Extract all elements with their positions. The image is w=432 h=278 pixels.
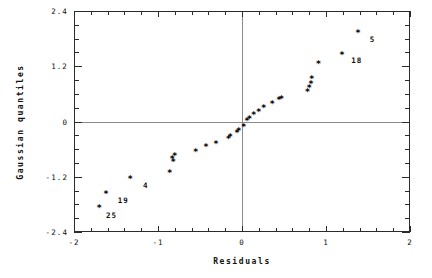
data-point: * [102,191,109,198]
x-axis-tick-top [124,11,125,15]
y-axis-tick-right [405,163,410,164]
y-axis-tick-left [74,52,79,53]
x-tick-label: 1 [323,238,329,247]
x-axis-tick-bottom [343,228,344,232]
x-axis-tick-top [343,11,344,15]
data-point: * [338,52,345,59]
y-axis-tick-right [405,191,410,192]
y-axis-tick-right [405,135,410,136]
x-axis-tick-top [309,11,310,15]
data-point: * [96,205,103,212]
data-point: * [166,170,173,177]
y-tick-label: 1.2 [51,62,68,71]
x-axis-tick-top [141,11,142,15]
y-axis-tick-left [74,218,79,219]
x-axis-tick-bottom [259,228,260,232]
y-axis-tick-left [74,122,82,123]
y-tick-label: 0 [62,118,68,127]
point-annotation: 25 [106,211,117,220]
x-axis-tick-bottom [309,228,310,232]
x-tick-label: -2 [68,238,79,247]
x-axis-tick-top [376,11,377,15]
x-axis-tick-bottom [326,226,327,232]
data-point: * [260,105,267,112]
y-axis-tick-left [74,25,79,26]
y-axis-tick-left [74,177,82,178]
x-axis-tick-bottom [141,228,142,232]
data-point: * [202,144,209,151]
y-axis-tick-right [405,25,410,26]
x-axis-tick-top [242,11,243,17]
y-axis-tick-right [405,149,410,150]
y-axis-tick-left [74,108,79,109]
y-axis-tick-right [405,108,410,109]
x-tick-label: 0 [239,238,245,247]
y-axis-tick-left [74,39,79,40]
data-point: * [278,96,285,103]
x-axis-tick-bottom [276,228,277,232]
x-axis-tick-top [158,11,159,17]
y-axis-title: Gaussian quantiles [16,64,25,180]
x-axis-tick-top [175,11,176,15]
x-axis-tick-top [410,11,411,17]
x-axis-tick-bottom [292,228,293,232]
data-point: * [354,30,361,37]
x-axis-tick-bottom [360,228,361,232]
y-axis-tick-left [74,80,79,81]
data-point: * [212,141,219,148]
y-axis-tick-right [405,218,410,219]
x-axis-tick-bottom [393,228,394,232]
x-axis-tick-bottom [225,228,226,232]
x-axis-tick-top [208,11,209,15]
y-axis-tick-right [405,39,410,40]
x-axis-tick-bottom [108,228,109,232]
data-point: * [308,76,315,83]
y-axis-tick-left [74,204,79,205]
x-axis-tick-bottom [376,228,377,232]
y-tick-label: -1.2 [46,173,68,182]
x-axis-tick-top [192,11,193,15]
y-tick-label: 2.4 [51,7,68,16]
y-axis-tick-left [74,94,79,95]
y-axis-tick-left [74,191,79,192]
data-point: * [315,61,322,68]
data-point: * [192,149,199,156]
x-axis-tick-top [108,11,109,15]
y-tick-label: -2.4 [46,228,68,237]
y-axis-tick-right [405,204,410,205]
x-axis-tick-bottom [175,228,176,232]
x-axis-tick-top [225,11,226,15]
chart-root: -2-10122.41.20-1.2-2.4 *****************… [0,0,432,278]
x-axis-tick-bottom [242,226,243,232]
point-annotation: 19 [118,196,129,205]
point-annotation: 5 [370,35,376,44]
data-point: * [171,153,178,160]
x-axis-tick-bottom [91,228,92,232]
x-axis-tick-bottom [192,228,193,232]
y-axis-tick-right [405,94,410,95]
y-axis-tick-left [74,149,79,150]
y-axis-tick-right [402,11,410,12]
x-axis-tick-bottom [124,228,125,232]
y-axis-tick-right [402,232,410,233]
x-axis-tick-top [360,11,361,15]
point-annotation: 18 [351,56,362,65]
point-annotation: 4 [143,181,149,190]
y-axis-tick-left [74,11,82,12]
x-axis-tick-top [393,11,394,15]
data-point: * [127,176,134,183]
y-axis-tick-left [74,163,79,164]
y-axis-tick-right [402,177,410,178]
x-axis-tick-top [91,11,92,15]
x-axis-tick-top [276,11,277,15]
y-axis-tick-right [405,52,410,53]
x-axis-tick-top [326,11,327,17]
y-axis-tick-right [402,122,410,123]
x-axis-title: Residuals [213,257,271,266]
x-tick-label: -1 [152,238,163,247]
x-tick-label: 2 [407,238,413,247]
x-axis-tick-top [259,11,260,15]
x-axis-tick-bottom [410,226,411,232]
y-axis-tick-left [74,66,82,67]
y-axis-tick-left [74,232,82,233]
